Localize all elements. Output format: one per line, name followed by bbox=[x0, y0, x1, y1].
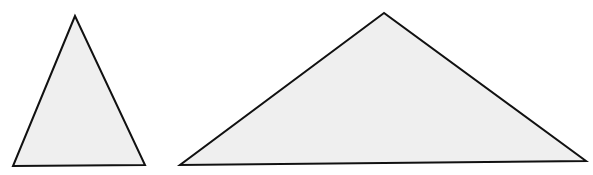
triangles-diagram bbox=[0, 0, 593, 175]
obtuse-triangle bbox=[180, 13, 586, 165]
acute-triangle bbox=[13, 16, 145, 166]
